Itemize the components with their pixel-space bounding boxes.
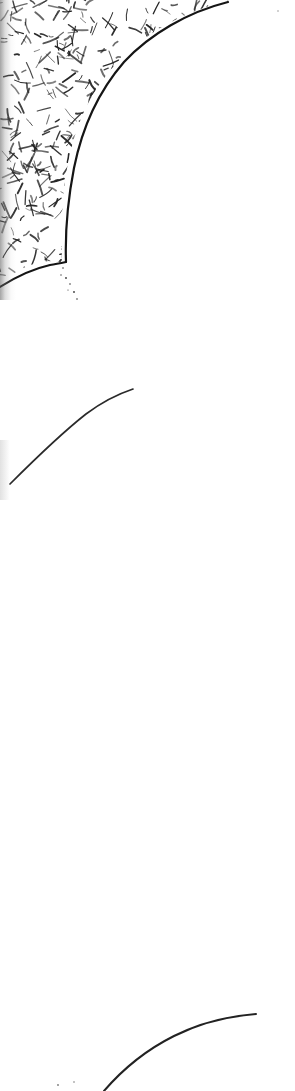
mass-boundary-curve	[66, 2, 228, 262]
bottom-speck-pair	[57, 1081, 75, 1086]
engraving-plate	[0, 0, 295, 1091]
scanned-page: Scanned engraving fragment	[0, 0, 295, 1091]
top-right-speck	[277, 10, 279, 12]
lower-curve	[104, 1014, 256, 1091]
ink-speck-trails	[57, 10, 279, 1086]
mass-base-curve	[0, 262, 66, 287]
mid-arc	[10, 389, 133, 484]
boundary-speck-trail	[59, 261, 78, 300]
hatched-mass-region	[0, 0, 243, 299]
